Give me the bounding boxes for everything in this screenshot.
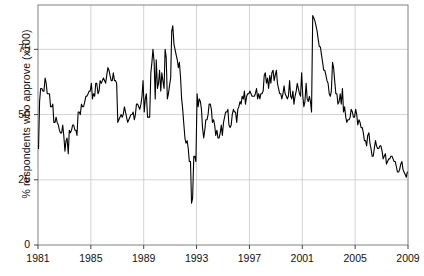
x-tick-label: 2009 bbox=[388, 252, 424, 264]
x-tick-label: 1997 bbox=[229, 252, 269, 264]
x-tick-label: 1981 bbox=[18, 252, 58, 264]
y-tick-label: 0 bbox=[4, 238, 30, 250]
y-tick-label: 75 bbox=[4, 42, 30, 54]
plot-area bbox=[0, 0, 424, 276]
x-tick-label: 1993 bbox=[177, 252, 217, 264]
x-tick-label: 2001 bbox=[282, 252, 322, 264]
line-chart-svg bbox=[0, 0, 424, 276]
data-series-line bbox=[39, 15, 408, 203]
chart-container: % respondents who approve (x100) 0255075… bbox=[0, 0, 424, 276]
x-tick-label: 1985 bbox=[71, 252, 111, 264]
x-tick-label: 2005 bbox=[335, 252, 375, 264]
y-tick-label: 50 bbox=[4, 108, 30, 120]
y-tick-label: 25 bbox=[4, 173, 30, 185]
x-tick-label: 1989 bbox=[124, 252, 164, 264]
